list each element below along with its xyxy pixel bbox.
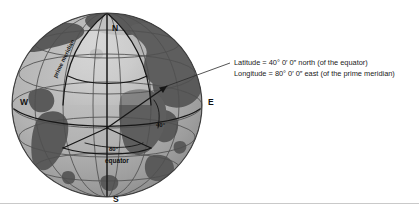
label-latitude-angle: 40° [156,122,165,128]
globe-illustration: N S W E 40° 80° equator prime meridian [8,6,213,202]
coordinate-annotation: Latitude = 40° 0′ 0″ north (of the equat… [234,57,419,79]
globe-svg [8,6,213,202]
annotation-line-longitude: Longitude = 80° 0′ 0″ east (of the prime… [234,68,419,79]
label-north: N [112,23,118,33]
label-west: W [20,97,28,107]
label-longitude-angle: 80° [109,146,118,152]
bottom-divider [0,203,419,204]
label-east: E [208,97,214,107]
annotation-line-latitude: Latitude = 40° 0′ 0″ north (of the equat… [234,57,419,68]
figure-canvas: N S W E 40° 80° equator prime meridian L… [0,0,419,211]
label-equator: equator [105,157,129,164]
